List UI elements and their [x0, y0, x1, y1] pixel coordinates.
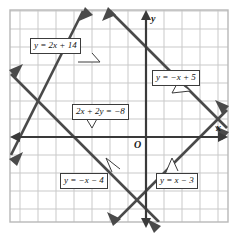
origin-label: O [134, 139, 141, 150]
x-axis-label: x [216, 122, 221, 133]
y-axis-label: y [151, 13, 155, 24]
coordinate-graph-figure: y = 2x + 14 y = −x + 5 2x + 2y = −8 y = … [0, 0, 237, 236]
callout-2x-2y-neg-8: 2x + 2y = −8 [72, 104, 129, 120]
callout-y-neg-x-5: y = −x + 5 [152, 70, 200, 86]
callout-y-x-3: y = x − 3 [156, 173, 198, 189]
callout-y-2x-14: y = 2x + 14 [30, 38, 81, 54]
callout-y-neg-x-4: y = −x − 4 [60, 173, 108, 189]
